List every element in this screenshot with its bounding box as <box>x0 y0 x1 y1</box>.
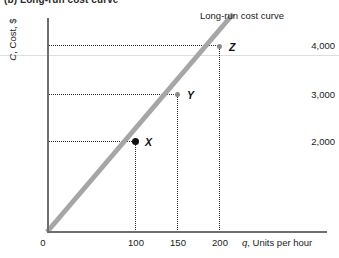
y-axis-unit: , Cost, $ <box>7 18 18 53</box>
x-tick-label-0: 0 <box>23 237 63 248</box>
data-point-y-label: Y <box>187 89 194 101</box>
data-point-z-label: Z <box>229 41 235 53</box>
data-point-z-marker <box>217 44 222 49</box>
x-tick-label-200: 200 <box>200 237 240 248</box>
x-axis-unit: , Units per hour <box>247 237 312 248</box>
y-axis-line <box>47 18 49 233</box>
y-tick-label-3000: 3,000 <box>295 89 339 100</box>
y-tick-label-4000: 4,000 <box>295 40 339 51</box>
x-tick-label-150: 150 <box>158 237 198 248</box>
y-axis-symbol: C <box>7 54 18 61</box>
plot-area: C, Cost, $ q, Units per hour 4,000 3,000… <box>0 0 339 258</box>
y-axis-title: C, Cost, $ <box>7 10 18 70</box>
x-axis-title: q, Units per hour <box>242 237 312 248</box>
y-tick-label-2000: 2,000 <box>295 136 339 147</box>
chart-screenshot: (b) Long-run cost curve C, Cost, $ q, Un… <box>0 0 339 258</box>
curve-annotation-label: Long-run cost curve <box>200 10 284 21</box>
data-point-x-marker <box>132 138 139 145</box>
x-tick-label-100: 100 <box>116 237 156 248</box>
x-axis-line <box>47 231 327 233</box>
data-point-y-marker <box>175 92 180 97</box>
long-run-cost-curve <box>0 0 339 258</box>
data-point-x-label: X <box>145 136 152 148</box>
